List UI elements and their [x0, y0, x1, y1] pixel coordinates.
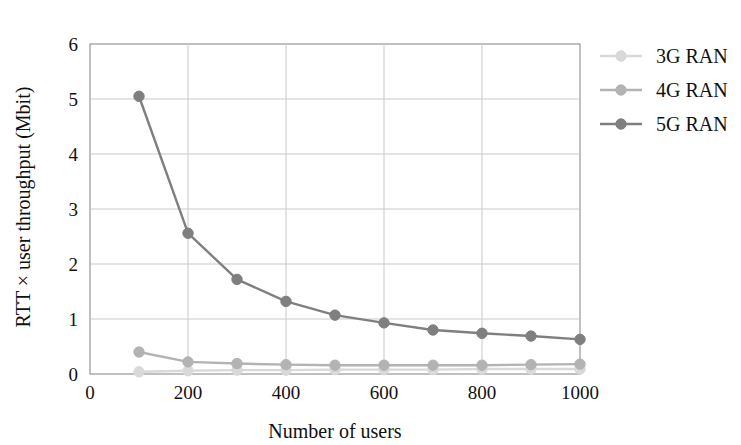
legend: 3G RAN4G RAN5G RAN — [600, 45, 728, 135]
data-point-marker — [379, 318, 389, 328]
data-point-marker — [379, 360, 389, 370]
y-tick-label: 6 — [69, 34, 79, 55]
x-tick-label: 400 — [272, 382, 301, 403]
x-tick-label: 0 — [85, 382, 95, 403]
data-point-marker — [575, 359, 585, 369]
x-tick-label: 600 — [370, 382, 399, 403]
legend-label: 4G RAN — [656, 79, 728, 101]
data-point-marker — [281, 296, 291, 306]
y-tick-label: 2 — [69, 254, 79, 275]
data-point-marker — [183, 357, 193, 367]
data-point-marker — [526, 331, 536, 341]
y-tick-label: 0 — [69, 364, 79, 385]
legend-label: 5G RAN — [656, 113, 728, 135]
y-tick-label: 3 — [69, 199, 79, 220]
data-point-marker — [134, 347, 144, 357]
legend-marker-icon — [616, 85, 626, 95]
legend-marker-icon — [616, 119, 626, 129]
data-point-marker — [526, 359, 536, 369]
data-point-marker — [428, 325, 438, 335]
data-point-marker — [134, 91, 144, 101]
x-tick-label: 1000 — [561, 382, 599, 403]
x-axis-title: Number of users — [268, 420, 402, 442]
data-point-marker — [183, 228, 193, 238]
y-tick-label: 1 — [69, 309, 79, 330]
data-point-marker — [575, 334, 585, 344]
chart-figure: 02004006008001000 0123456 Number of user… — [0, 0, 741, 445]
data-point-marker — [477, 328, 487, 338]
y-tick-label: 5 — [69, 89, 79, 110]
data-point-marker — [232, 358, 242, 368]
x-tick-label: 800 — [468, 382, 497, 403]
data-point-marker — [477, 360, 487, 370]
data-point-marker — [428, 360, 438, 370]
data-point-marker — [134, 367, 144, 377]
data-point-marker — [330, 310, 340, 320]
x-tick-label: 200 — [174, 382, 203, 403]
y-tick-label: 4 — [69, 144, 79, 165]
data-point-marker — [232, 274, 242, 284]
legend-marker-icon — [616, 51, 626, 61]
y-axis-title: RTT × user throughput (Mbit) — [12, 87, 35, 328]
data-point-marker — [330, 360, 340, 370]
data-point-marker — [281, 359, 291, 369]
legend-label: 3G RAN — [656, 45, 728, 67]
